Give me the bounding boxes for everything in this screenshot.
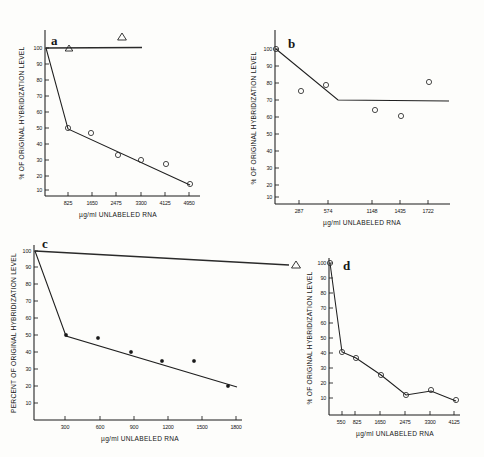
panel-d-ytick-100: 100 bbox=[318, 260, 327, 266]
panel-c-ytick-80: 80 bbox=[25, 281, 31, 287]
panel-c-ylabel: PERCENT OF ORIGINAL HYBRIDIZATION LEVEL bbox=[10, 253, 17, 413]
panel-a-xtick-825: 825 bbox=[64, 200, 73, 206]
panel-a-ytick-10: 10 bbox=[36, 187, 42, 193]
panel-b-ytick-20: 20 bbox=[266, 182, 272, 188]
panel-a-ytick-70: 70 bbox=[36, 93, 42, 99]
panel-c-ytick-50: 50 bbox=[25, 332, 31, 338]
panel-d-xtick-825: 825 bbox=[353, 419, 362, 425]
panel-c-ytick-60: 60 bbox=[25, 315, 31, 321]
panel-b-ytick-80: 80 bbox=[266, 80, 272, 86]
panel-a-control-line bbox=[46, 48, 142, 49]
panel-b: 100 90 80 70 60 50 40 30 20 10 287 574 1… bbox=[242, 0, 484, 228]
panel-a-xtick-4950: 4950 bbox=[183, 200, 194, 206]
panel-c-xtick-300: 300 bbox=[61, 424, 70, 430]
panel-b-y-ticks bbox=[275, 49, 279, 197]
panel-a-xtick-3300: 3300 bbox=[135, 200, 146, 206]
panel-a-triangle-marker-2 bbox=[118, 33, 127, 40]
panel-c-ytick-90: 90 bbox=[25, 264, 31, 270]
panel-a-ytick-100: 100 bbox=[34, 45, 43, 51]
panel-a-x-ticks bbox=[68, 192, 189, 196]
panel-d-ytick-30: 30 bbox=[320, 365, 326, 371]
panel-a: 100 90 80 70 60 50 40 30 20 10 825 1650 … bbox=[0, 0, 242, 228]
panel-d-ytick-50: 50 bbox=[320, 335, 326, 341]
panel-a-xtick-4125: 4125 bbox=[159, 200, 170, 206]
panel-c-ytick-10: 10 bbox=[25, 400, 31, 406]
panel-c-control-line bbox=[35, 251, 289, 265]
panel-a-xtick-2475: 2475 bbox=[110, 200, 121, 206]
panel-a-ytick-60: 60 bbox=[36, 109, 42, 115]
panel-d-ytick-40: 40 bbox=[320, 350, 326, 356]
panel-d-ytick-70: 70 bbox=[320, 305, 326, 311]
panel-c-ytick-40: 40 bbox=[25, 349, 31, 355]
panel-c-ytick-20: 20 bbox=[25, 383, 31, 389]
panel-d-ytick-10: 10 bbox=[320, 395, 326, 401]
figure-canvas: 100 90 80 70 60 50 40 30 20 10 825 1650 … bbox=[0, 0, 484, 457]
panel-a-xlabel: µg/ml UNLABELED RNA bbox=[79, 211, 157, 219]
panel-b-data-points bbox=[273, 46, 431, 118]
panel-d-xtick-1650: 1650 bbox=[374, 419, 385, 425]
panel-d-ytick-60: 60 bbox=[320, 320, 326, 326]
panel-c-x-ticks bbox=[65, 416, 236, 420]
panel-d-xtick-4125: 4125 bbox=[448, 419, 459, 425]
panel-c-xtick-600: 600 bbox=[96, 424, 105, 430]
panel-b-x-ticks bbox=[299, 200, 428, 204]
panel-b-ytick-70: 70 bbox=[266, 97, 272, 103]
panel-d-data-line bbox=[330, 263, 456, 401]
panel-d-xlabel: µg/ml UNLABELED RNA bbox=[356, 430, 434, 438]
panel-b-ytick-10: 10 bbox=[266, 194, 272, 200]
panel-b-ytick-60: 60 bbox=[266, 114, 272, 120]
panel-d-xtick-3300: 3300 bbox=[424, 419, 435, 425]
panel-b-xtick-1435: 1435 bbox=[394, 208, 405, 214]
panel-b-ytick-100: 100 bbox=[264, 46, 273, 52]
panel-b-ytick-40: 40 bbox=[266, 148, 272, 154]
panel-a-ytick-40: 40 bbox=[36, 141, 42, 147]
panel-c-xtick-900: 900 bbox=[130, 424, 139, 430]
panel-c-xtick-1500: 1500 bbox=[196, 424, 207, 430]
panel-d-ytick-90: 90 bbox=[320, 275, 326, 281]
panel-c: 100 90 80 70 60 50 40 30 20 10 300 600 9… bbox=[0, 228, 310, 457]
panel-c-ytick-30: 30 bbox=[25, 366, 31, 372]
panel-a-xtick-1650: 1650 bbox=[86, 200, 97, 206]
panel-a-ytick-90: 90 bbox=[36, 61, 42, 67]
panel-d-data-points bbox=[327, 260, 458, 402]
panel-d-letter: d bbox=[343, 258, 351, 273]
panel-c-xtick-1800: 1800 bbox=[230, 424, 241, 430]
panel-c-ytick-70: 70 bbox=[25, 298, 31, 304]
panel-a-ytick-50: 50 bbox=[36, 125, 42, 131]
panel-d: 100 90 80 70 60 50 40 30 20 10 550 825 1… bbox=[300, 228, 484, 457]
panel-b-ytick-90: 90 bbox=[266, 63, 272, 69]
panel-a-y-ticks bbox=[45, 48, 49, 190]
panel-a-ylabel: % OF ORIGINAL HYBRIDIZATION LEVEL bbox=[18, 47, 25, 180]
panel-a-ytick-20: 20 bbox=[36, 173, 42, 179]
panel-d-xtick-550: 550 bbox=[337, 419, 346, 425]
panel-b-xtick-574: 574 bbox=[324, 208, 333, 214]
panel-a-ytick-80: 80 bbox=[36, 77, 42, 83]
panel-a-ytick-30: 30 bbox=[36, 157, 42, 163]
panel-d-ylabel: % OF ORIGINAL HYBRIDIZATION LEVEL bbox=[306, 272, 313, 405]
panel-b-ytick-50: 50 bbox=[266, 131, 272, 137]
panel-b-ytick-30: 30 bbox=[266, 165, 272, 171]
panel-d-xtick-2475: 2475 bbox=[399, 419, 410, 425]
panel-b-xtick-1722: 1722 bbox=[422, 208, 433, 214]
panel-b-xtick-1148: 1148 bbox=[367, 208, 378, 214]
panel-c-xtick-1200: 1200 bbox=[162, 424, 173, 430]
panel-d-ytick-80: 80 bbox=[320, 290, 326, 296]
panel-b-xlabel: µg/ml UNLABELED RNA bbox=[323, 219, 401, 227]
panel-a-letter: a bbox=[51, 33, 58, 48]
panel-d-ytick-20: 20 bbox=[320, 380, 326, 386]
panel-c-xlabel: µg/ml UNLABELED RNA bbox=[101, 435, 179, 443]
panel-d-x-ticks bbox=[342, 411, 454, 415]
panel-c-y-ticks bbox=[34, 251, 38, 403]
panel-c-data-line bbox=[35, 251, 237, 387]
panel-b-xtick-287: 287 bbox=[295, 208, 304, 214]
panel-c-letter: c bbox=[42, 236, 48, 251]
panel-b-ylabel: % OF ORIGINAL HYBRIDIZATION LEVEL bbox=[250, 52, 257, 185]
panel-c-ytick-100: 100 bbox=[23, 248, 32, 254]
panel-b-letter: b bbox=[288, 36, 295, 51]
